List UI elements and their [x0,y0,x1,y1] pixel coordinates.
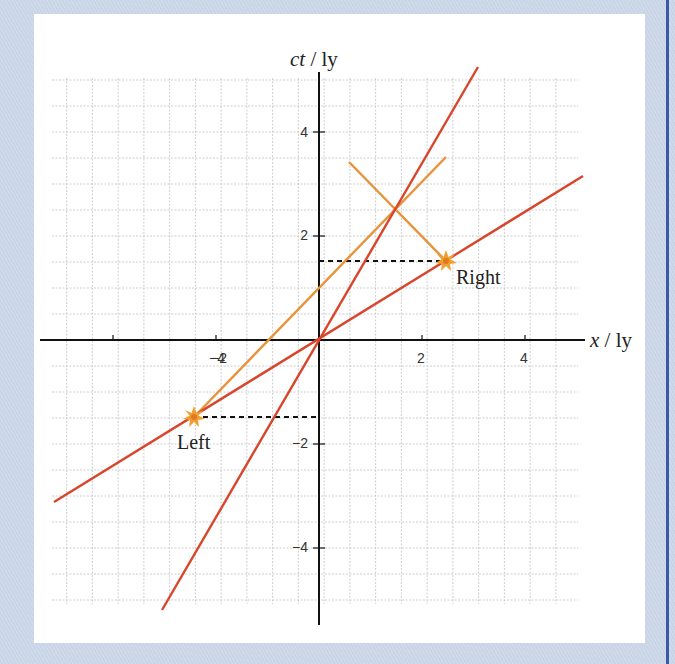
y-tick-label: 4 [300,124,308,140]
right-event-label: Right [456,266,501,289]
y-axis-label: ct / ly [290,47,338,71]
x-tick-label: 4 [520,350,528,366]
x-tick-label: −2 [211,350,227,366]
y-tick-label: 2 [300,227,308,243]
orange-ray-to-right [349,162,446,261]
y-tick-label: −4 [292,539,308,555]
y-tick-label: −2 [292,435,308,451]
x-axis-label: x / ly [589,328,632,352]
axes [40,72,585,625]
spacetime-diagram: ct / ly x / ly −4 −2 −2 2 4 4 2 −2 −4 Le… [0,0,675,664]
left-event-label: Left [177,431,211,453]
x-tick-label: 2 [417,350,425,366]
